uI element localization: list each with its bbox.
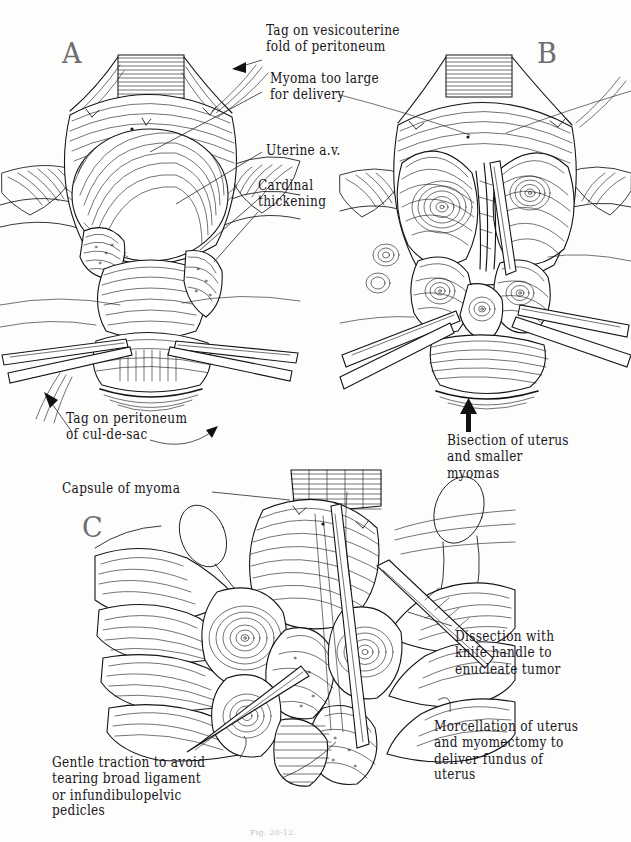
label-morcellation: Morcellation of uterus and myomectomy to… <box>434 718 578 783</box>
leader-cardinal <box>200 196 262 250</box>
label-tag-culdesac: Tag on peritoneum of cul-de-sac <box>66 410 187 443</box>
leader-uterine-av <box>176 152 262 204</box>
leader-capsule <box>212 492 290 500</box>
label-capsule-of-myoma: Capsule of myoma <box>62 480 180 496</box>
label-dissection-knife: Dissection with knife handle to enucleat… <box>455 628 561 677</box>
leader-gentle-traction <box>240 736 246 758</box>
leader-myoma-too-large <box>150 92 262 152</box>
label-gentle-traction: Gentle traction to avoid tearing broad l… <box>52 754 205 819</box>
label-uterine-av: Uterine a.v. <box>266 142 341 158</box>
arrow-up-icon <box>460 398 477 432</box>
label-myoma-too-large: Myoma too large for delivery <box>270 70 379 103</box>
leader-morcellation <box>438 698 450 712</box>
figure-caption: Fig. 20-12. <box>250 828 296 837</box>
label-tag-vesicouterine: Tag on vesicouterine fold of peritoneum <box>266 22 400 55</box>
label-bisection: Bisection of uterus and smaller myomas <box>447 432 569 481</box>
leader-dissection <box>408 612 452 626</box>
illustration-plate: A <box>0 0 631 842</box>
label-cardinal-thickening: Cardinal thickening <box>258 177 326 210</box>
arrow-left-icon <box>232 60 262 73</box>
